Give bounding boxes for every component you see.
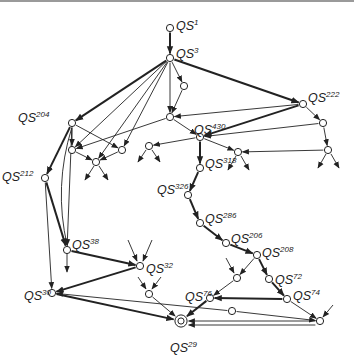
state-node	[324, 146, 331, 153]
state-node	[118, 146, 125, 153]
edge-n32-to-n30	[56, 267, 135, 291]
edge-n204-to-n212	[47, 127, 70, 174]
stub-arrow	[99, 166, 108, 180]
edge-n74-to-n76	[215, 298, 283, 299]
edge-nk-to-n29	[153, 297, 176, 316]
edge-n286-to-n206	[204, 226, 223, 240]
state-node-qs206	[222, 239, 229, 246]
edge-n38-to-n32	[71, 251, 135, 265]
state-node	[180, 82, 187, 89]
state-node-qs72	[265, 275, 272, 282]
stub-arrow	[226, 258, 234, 273]
edge-n3-to-nd	[75, 61, 166, 147]
stub-arrow	[323, 305, 333, 317]
state-node-qs38	[63, 246, 70, 253]
node-label-qs30: QS30	[24, 288, 52, 303]
state-node	[228, 307, 235, 314]
state-node	[233, 274, 240, 281]
state-node	[234, 148, 241, 155]
stub-arrow	[331, 154, 339, 168]
state-node	[166, 113, 173, 120]
state-graph-diagram: QS1QS3QS222QS204QS430QS318QS212QS326QS28…	[0, 0, 354, 357]
stub-arrow	[138, 277, 146, 289]
edge-n430-to-nf	[154, 138, 196, 145]
state-node-qs29	[175, 315, 187, 327]
edge-na-to-nb	[172, 90, 182, 113]
edge-n208-to-nj	[240, 258, 254, 274]
node-label-qs74: QS74	[293, 288, 321, 303]
state-node-qs326	[184, 191, 191, 198]
node-label-qs222: QS222	[308, 90, 340, 105]
node-label-qs286: QS286	[205, 211, 237, 226]
edge-n204-to-n38	[61, 128, 71, 246]
state-node-qs212	[41, 174, 48, 181]
state-node-qs3	[166, 54, 173, 61]
state-node	[145, 290, 152, 297]
state-node	[319, 119, 326, 126]
stub-arrow	[152, 150, 160, 162]
state-node	[92, 158, 99, 165]
edge-nb-to-n430	[174, 120, 196, 135]
stub-arrow	[128, 240, 137, 261]
node-label-qs212: QS212	[2, 169, 34, 184]
node-label-qs204: QS204	[18, 110, 50, 125]
state-node-qs74	[283, 295, 290, 302]
edge-n74-to-nm	[291, 302, 316, 319]
state-node-qs1	[166, 24, 173, 31]
edge-n208-to-n72	[259, 259, 267, 275]
edge-n3-to-n222	[174, 60, 298, 103]
state-node-qs32	[136, 262, 143, 269]
edge-nj-to-n76	[214, 281, 234, 296]
edge-nc-to-ni	[324, 128, 327, 146]
state-node-qs222	[299, 100, 306, 107]
node-label-qs72: QS72	[275, 272, 303, 287]
edge-ni-to-nh	[243, 150, 324, 152]
state-node-qs286	[196, 219, 203, 226]
edge-n222-to-nc	[306, 107, 319, 120]
state-node	[316, 317, 323, 324]
node-label-qs1: QS1	[176, 18, 199, 33]
edge-nl-to-nm	[237, 312, 316, 321]
edge-n326-to-n286	[190, 199, 198, 219]
edge-n3-to-na	[172, 62, 182, 82]
stub-arrow	[143, 240, 152, 261]
edge-n318-to-n326	[190, 172, 198, 191]
stub-arrow	[318, 154, 326, 168]
edge-n3-to-ng	[99, 62, 168, 159]
state-node-qs204	[68, 119, 75, 126]
node-label-qs3: QS3	[176, 46, 199, 61]
stub-arrow	[241, 156, 249, 170]
state-node-qs318	[196, 164, 203, 171]
edge-n212-to-n38	[46, 182, 65, 245]
node-label-qs208: QS208	[262, 245, 294, 260]
edge-n204-to-n38	[67, 128, 72, 246]
edge-nd-to-ng	[76, 152, 92, 160]
state-node	[145, 142, 152, 149]
edge-n430-to-nh	[204, 139, 233, 151]
edge-n30-to-n29	[56, 294, 173, 319]
state-node	[68, 146, 75, 153]
node-label-qs29: QS29	[170, 340, 198, 355]
state-node-qs208	[253, 251, 260, 258]
stub-arrow	[152, 277, 161, 289]
node-label-qs206: QS206	[231, 231, 263, 246]
node-label-qs318: QS318	[205, 156, 237, 171]
node-label-qs32: QS32	[146, 261, 174, 276]
stub-arrow	[138, 150, 146, 162]
stub-arrow	[85, 166, 94, 180]
node-label-qs38: QS38	[72, 237, 100, 252]
